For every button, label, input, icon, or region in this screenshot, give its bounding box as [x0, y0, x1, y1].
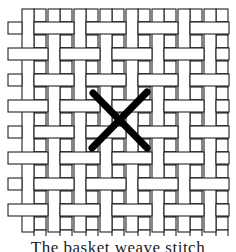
canvas-mesh-square [34, 217, 46, 230]
horizontal-strand [8, 48, 48, 60]
horizontal-strand [86, 22, 126, 34]
canvas-mesh-square [60, 165, 72, 178]
canvas-mesh-square [216, 9, 228, 22]
horizontal-strand [216, 204, 229, 216]
canvas-mesh-square [34, 87, 46, 100]
canvas-mesh-square [164, 9, 176, 22]
canvas-mesh-square [34, 230, 46, 236]
canvas-mesh-square [190, 35, 202, 48]
canvas-mesh-square [112, 165, 124, 178]
canvas-mesh-square [86, 35, 98, 48]
horizontal-strand [164, 100, 204, 112]
canvas-mesh-square [164, 139, 176, 152]
canvas-mesh-square [190, 165, 202, 178]
horizontal-strand [34, 126, 74, 138]
canvas-mesh-square [164, 165, 176, 178]
canvas-weave-grid [0, 0, 236, 236]
canvas-mesh-square [138, 165, 150, 178]
canvas-mesh-square [190, 217, 202, 230]
horizontal-strand [34, 22, 74, 34]
horizontal-strand [60, 204, 100, 216]
horizontal-strand [8, 178, 22, 190]
horizontal-strand [190, 178, 229, 190]
vertical-strand [22, 9, 34, 232]
weave-diagram [0, 0, 236, 236]
canvas-mesh-square [60, 191, 72, 204]
canvas-mesh-square [112, 230, 124, 236]
canvas-mesh-square [112, 87, 124, 100]
horizontal-strand [112, 204, 152, 216]
canvas-mesh-square [216, 165, 228, 178]
horizontal-strand [34, 74, 74, 86]
canvas-mesh-square [138, 61, 150, 74]
canvas-mesh-square [60, 217, 72, 230]
horizontal-strand [216, 48, 229, 60]
horizontal-strand [34, 178, 74, 190]
canvas-mesh-square [86, 217, 98, 230]
canvas-mesh-square [138, 230, 150, 236]
canvas-mesh-square [86, 61, 98, 74]
canvas-mesh-square [60, 230, 72, 236]
horizontal-strand [138, 126, 178, 138]
canvas-mesh-square [112, 217, 124, 230]
horizontal-strand [8, 152, 48, 164]
canvas-mesh-square [138, 217, 150, 230]
vertical-strand [178, 9, 190, 232]
canvas-mesh-square [60, 35, 72, 48]
horizontal-strand [8, 126, 22, 138]
canvas-mesh-square [164, 230, 176, 236]
canvas-mesh-square [164, 113, 176, 126]
canvas-mesh-square [138, 9, 150, 22]
canvas-mesh-square [190, 139, 202, 152]
canvas-mesh-square [138, 113, 150, 126]
horizontal-strand [138, 22, 178, 34]
canvas-mesh-square [34, 113, 46, 126]
canvas-mesh-square [60, 113, 72, 126]
figure-caption: The basket weave stitch [0, 237, 236, 252]
vertical-strand [204, 9, 216, 232]
canvas-mesh-square [138, 35, 150, 48]
canvas-mesh-square [34, 35, 46, 48]
horizontal-strand [8, 74, 22, 86]
canvas-mesh-square [216, 191, 228, 204]
canvas-mesh-square [164, 191, 176, 204]
horizontal-strand [112, 48, 152, 60]
canvas-mesh-square [190, 61, 202, 74]
canvas-mesh-square [60, 139, 72, 152]
canvas-mesh-square [86, 230, 98, 236]
horizontal-strand [112, 152, 152, 164]
canvas-mesh-square [216, 87, 228, 100]
canvas-mesh-square [216, 35, 228, 48]
horizontal-strand [164, 204, 204, 216]
horizontal-strand [8, 204, 48, 216]
canvas-mesh-square [60, 9, 72, 22]
canvas-mesh-square [86, 165, 98, 178]
canvas-mesh-square [216, 113, 228, 126]
canvas-mesh-square [216, 230, 228, 236]
horizontal-strand [216, 100, 229, 112]
horizontal-strand [216, 152, 229, 164]
canvas-mesh-square [34, 191, 46, 204]
canvas-mesh-square [138, 191, 150, 204]
canvas-mesh-square [112, 9, 124, 22]
canvas-mesh-square [112, 61, 124, 74]
horizontal-strand [164, 48, 204, 60]
canvas-mesh-square [86, 191, 98, 204]
horizontal-strand [164, 152, 204, 164]
horizontal-strand [60, 152, 100, 164]
canvas-mesh-square [112, 35, 124, 48]
canvas-mesh-square [190, 191, 202, 204]
canvas-mesh-square [86, 113, 98, 126]
horizontal-strand [8, 100, 48, 112]
horizontal-strand [190, 74, 229, 86]
horizontal-strand [138, 74, 178, 86]
horizontal-strand [60, 48, 100, 60]
canvas-mesh-square [164, 61, 176, 74]
vertical-strand [74, 9, 86, 232]
horizontal-strand [190, 22, 229, 34]
canvas-mesh-square [216, 139, 228, 152]
horizontal-strand [8, 22, 22, 34]
canvas-mesh-square [34, 139, 46, 152]
canvas-mesh-square [190, 87, 202, 100]
vertical-strand [126, 9, 138, 232]
